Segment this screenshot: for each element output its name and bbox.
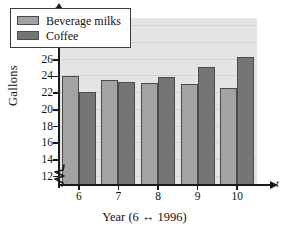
bar-coffee-8 <box>158 77 175 185</box>
y-axis-tick <box>53 76 60 78</box>
legend-swatch-beverage-milks <box>17 16 39 25</box>
y-axis-tick-label: 26 <box>13 54 53 66</box>
y-axis-tick-label: 22 <box>13 87 53 99</box>
bar-beverage-milks-9 <box>181 84 198 185</box>
y-axis-tick-label: 20 <box>13 104 53 116</box>
y-axis-tick-label: 24 <box>13 70 53 82</box>
x-axis-line <box>58 184 272 186</box>
y-axis-tick <box>53 126 60 128</box>
chart-legend: Beverage milks Coffee <box>10 8 131 48</box>
bar-coffee-10 <box>237 57 254 185</box>
y-axis-tick-label: 18 <box>13 121 53 133</box>
x-axis-tick-label: 10 <box>217 191 257 203</box>
bar-chart-figure: Gallons y t 12141618202224262830 678910 … <box>0 0 289 234</box>
legend-item-beverage-milks: Beverage milks <box>17 13 121 28</box>
x-axis-tick-label: 6 <box>59 191 99 203</box>
legend-label-beverage-milks: Beverage milks <box>46 15 121 27</box>
gridline <box>59 75 257 76</box>
bar-coffee-7 <box>118 82 135 185</box>
x-axis-arrow-icon <box>270 181 278 189</box>
bar-beverage-milks-7 <box>101 80 118 185</box>
legend-label-coffee: Coffee <box>46 30 78 42</box>
y-axis-tick-label: 14 <box>13 154 53 166</box>
x-axis-tick-label: 8 <box>138 191 178 203</box>
y-axis-tick <box>53 109 60 111</box>
y-axis-tick <box>53 59 60 61</box>
y-axis-tick-label: 12 <box>13 171 53 183</box>
y-axis-tick <box>53 142 60 144</box>
x-axis-title: Year (6 ↔ 1996) <box>0 210 289 225</box>
bar-beverage-milks-10 <box>220 88 237 185</box>
y-axis-tick <box>53 159 60 161</box>
y-axis-tick <box>53 92 60 94</box>
legend-swatch-coffee <box>17 31 39 40</box>
x-axis-tick-label: 9 <box>178 191 218 203</box>
bar-beverage-milks-8 <box>141 83 158 185</box>
y-axis-tick-label: 16 <box>13 137 53 149</box>
gridline <box>59 59 257 60</box>
bar-coffee-9 <box>198 67 215 185</box>
bar-coffee-6 <box>79 92 96 185</box>
axis-break-icon <box>50 163 70 187</box>
legend-item-coffee: Coffee <box>17 28 121 43</box>
x-axis-tick-label: 7 <box>98 191 138 203</box>
